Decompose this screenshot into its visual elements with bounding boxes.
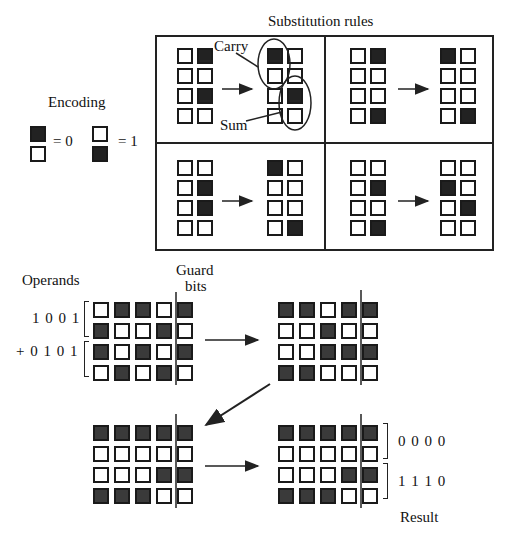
sum-pointer: [246, 112, 282, 121]
connector-layer: [0, 0, 514, 535]
carry-pointer: [236, 53, 258, 67]
sum-ellipse: [279, 76, 311, 130]
step-arrow-icon: [206, 384, 270, 425]
